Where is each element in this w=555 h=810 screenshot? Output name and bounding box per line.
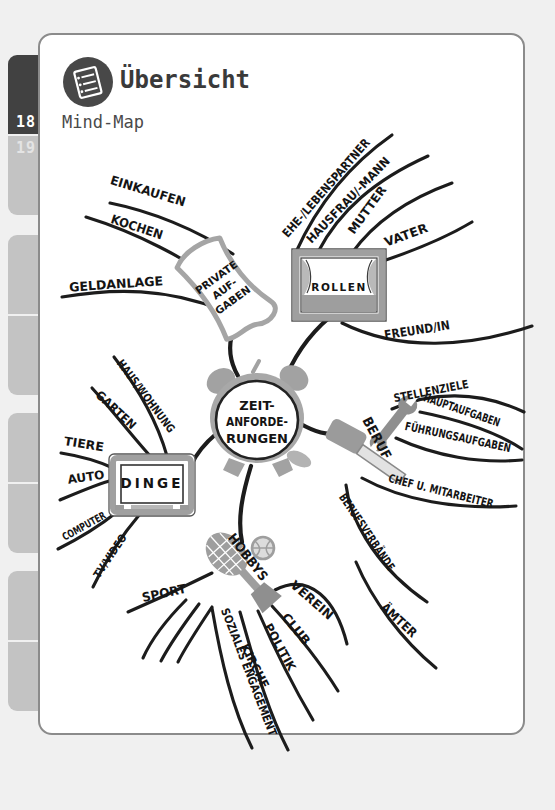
scroll-banner-icon: PRIVATE AUF- GABEN xyxy=(172,229,280,346)
hammer-wrench-icon: BERUF xyxy=(324,390,423,484)
branch-label-tv-video: TV/VIDEO xyxy=(91,532,130,581)
branch-label-tiere: TIERE xyxy=(63,434,105,454)
branch-to-hobbys xyxy=(240,466,251,542)
center-line-1: ZEIT- xyxy=(239,398,275,413)
branch-label-aemter: ÄMTER xyxy=(378,599,421,640)
theater-stage-icon: ROLLEN xyxy=(292,249,386,321)
mind-map: ZEIT- ANFORDE- RUNGEN PRIVATE AUF- GABEN… xyxy=(0,0,555,810)
tv-icon: DINGE xyxy=(109,454,195,516)
line-sport-sub3 xyxy=(178,607,212,662)
line-tiere xyxy=(61,453,113,468)
center-line-3: RUNGEN xyxy=(226,431,288,446)
branch-label-sport: SPORT xyxy=(140,581,188,605)
line-sport-sub2 xyxy=(161,604,199,661)
tennis-racket-icon: HOBBYS xyxy=(197,524,285,616)
branch-label-berufsverbaende: BERUFSVERBÄNDE xyxy=(336,490,399,573)
line-berufsverbaende xyxy=(346,485,427,602)
node-label-dinge: DINGE xyxy=(121,475,184,491)
branch-label-freund-in: FREUND/IN xyxy=(383,317,451,342)
center-line-2: ANFORDE- xyxy=(226,414,288,429)
branch-label-chef-mitarbeiter: CHEF U. MITARBEITER xyxy=(387,471,495,511)
node-label-rollen: ROLLEN xyxy=(311,281,366,293)
branch-label-garten: GARTEN xyxy=(93,388,139,432)
